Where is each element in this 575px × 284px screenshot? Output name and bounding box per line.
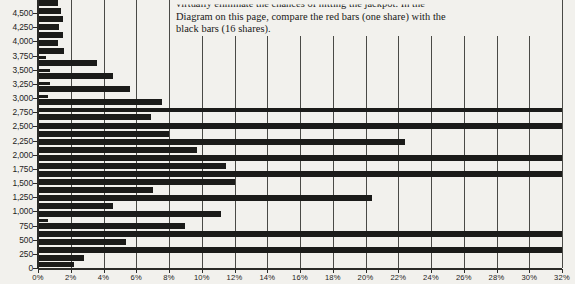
bar	[38, 8, 61, 14]
x-axis-tick-label: 22%	[381, 273, 415, 282]
caption-line-3: black bars (16 shares).	[176, 23, 558, 36]
x-axis-tick-label: 28%	[480, 273, 514, 282]
x-axis-tick-label: 14%	[250, 273, 284, 282]
bar	[38, 179, 235, 185]
x-axis-tick-label: 10%	[185, 273, 219, 282]
gridline-vertical	[300, 0, 301, 268]
bar	[38, 69, 50, 72]
y-axis-tick-label: 0	[0, 263, 33, 273]
y-axis-tick-label: 3,750	[0, 51, 33, 61]
x-axis-tick-label: 2%	[54, 273, 88, 282]
x-axis-tick-label: 24%	[414, 273, 448, 282]
x-axis-tick-label: 4%	[87, 273, 121, 282]
gridline-vertical	[366, 0, 367, 268]
bar	[38, 262, 74, 267]
gridline-vertical	[235, 0, 236, 268]
y-axis-tick-label: 4,250	[0, 22, 33, 32]
x-axis-tick-label: 12%	[218, 273, 252, 282]
bar	[38, 187, 153, 193]
bar	[38, 195, 372, 201]
plot-area	[38, 0, 562, 268]
bar	[38, 247, 562, 253]
x-axis-tick-label: 0%	[21, 273, 55, 282]
bar	[38, 95, 48, 98]
x-axis-tick-label: 20%	[349, 273, 383, 282]
y-axis-tick-label: 3,000	[0, 93, 33, 103]
bar	[38, 82, 50, 85]
gridline-vertical	[202, 0, 203, 268]
x-axis-tick-label: 30%	[512, 273, 546, 282]
gridline-vertical	[497, 0, 498, 268]
bar	[38, 60, 97, 66]
x-axis-tick-label: 6%	[119, 273, 153, 282]
bar	[38, 131, 169, 137]
gridline-vertical	[529, 0, 530, 268]
y-axis-tick-label: 2,500	[0, 121, 33, 131]
bar	[38, 123, 562, 129]
y-axis-tick-label: 2,750	[0, 107, 33, 117]
bar	[38, 56, 46, 59]
y-axis-tick-label: 2,250	[0, 136, 33, 146]
bar	[38, 223, 185, 229]
bar	[38, 48, 64, 54]
bar	[38, 239, 126, 245]
y-axis-tick-label: 1,750	[0, 164, 33, 174]
bar	[38, 147, 197, 153]
y-axis-tick-label: 2,000	[0, 150, 33, 160]
bar	[38, 171, 562, 177]
bar	[38, 155, 562, 161]
bar	[38, 139, 405, 145]
bar	[38, 99, 162, 105]
bar	[38, 114, 151, 120]
gridline-vertical	[398, 0, 399, 268]
x-axis-tick-label: 26%	[447, 273, 481, 282]
bar	[38, 203, 113, 209]
x-axis-tick-label: 8%	[152, 273, 186, 282]
caption-line-1: virtually eliminate the chances of hitti…	[176, 0, 558, 11]
y-axis-tick-label: 750	[0, 221, 33, 231]
x-axis-tick-label: 32%	[545, 273, 575, 282]
bar	[38, 24, 59, 30]
bar	[38, 211, 221, 217]
bar	[38, 0, 58, 6]
y-axis-tick-label: 250	[0, 249, 33, 259]
gridline-vertical	[267, 0, 268, 268]
x-axis-tick-label: 18%	[316, 273, 350, 282]
gridline-vertical	[333, 0, 334, 268]
bar	[38, 163, 226, 169]
y-axis-line	[37, 0, 39, 269]
bar	[38, 16, 63, 22]
bar	[38, 32, 63, 38]
bar	[38, 108, 562, 112]
x-axis-tick-label: 16%	[283, 273, 317, 282]
y-axis-tick-label: 500	[0, 235, 33, 245]
gridline-vertical	[562, 0, 563, 268]
y-axis-tick-label: 1,000	[0, 206, 33, 216]
bar	[38, 219, 48, 222]
bar	[38, 73, 113, 79]
y-axis-tick-label: 3,500	[0, 65, 33, 75]
y-axis-tick-label: 3,250	[0, 79, 33, 89]
y-axis-tick-label: 1,250	[0, 192, 33, 202]
gridline-vertical	[431, 0, 432, 268]
bar	[38, 231, 562, 237]
caption-line-2: Diagram on this page, compare the red ba…	[176, 11, 558, 24]
bar	[38, 86, 130, 92]
caption-text: virtually eliminate the chances of hitti…	[176, 0, 558, 36]
y-axis-tick-label: 4,000	[0, 36, 33, 46]
bar	[38, 255, 84, 261]
gridline-vertical	[464, 0, 465, 268]
bar	[38, 40, 58, 46]
y-axis-tick-label: 4,500	[0, 8, 33, 18]
y-axis-tick-label: 1,500	[0, 178, 33, 188]
